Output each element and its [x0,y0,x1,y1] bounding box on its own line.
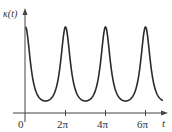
plot-area [0,0,172,132]
x-axis-label: t [162,118,165,129]
tick-label-6pi: 6π [137,119,148,130]
x-axis [13,111,168,116]
x-axis-arrow-icon [161,111,168,116]
origin-label: 0 [18,119,24,130]
tick-label-2pi: 2π [57,119,68,130]
kappa-curve [26,27,164,101]
y-axis [23,8,28,122]
chart-root: κ(t) t 0 2π 4π 6π [0,0,172,132]
tick-label-4pi: 4π [97,119,108,130]
y-axis-label: κ(t) [3,9,17,19]
y-axis-arrow-icon [23,8,28,15]
